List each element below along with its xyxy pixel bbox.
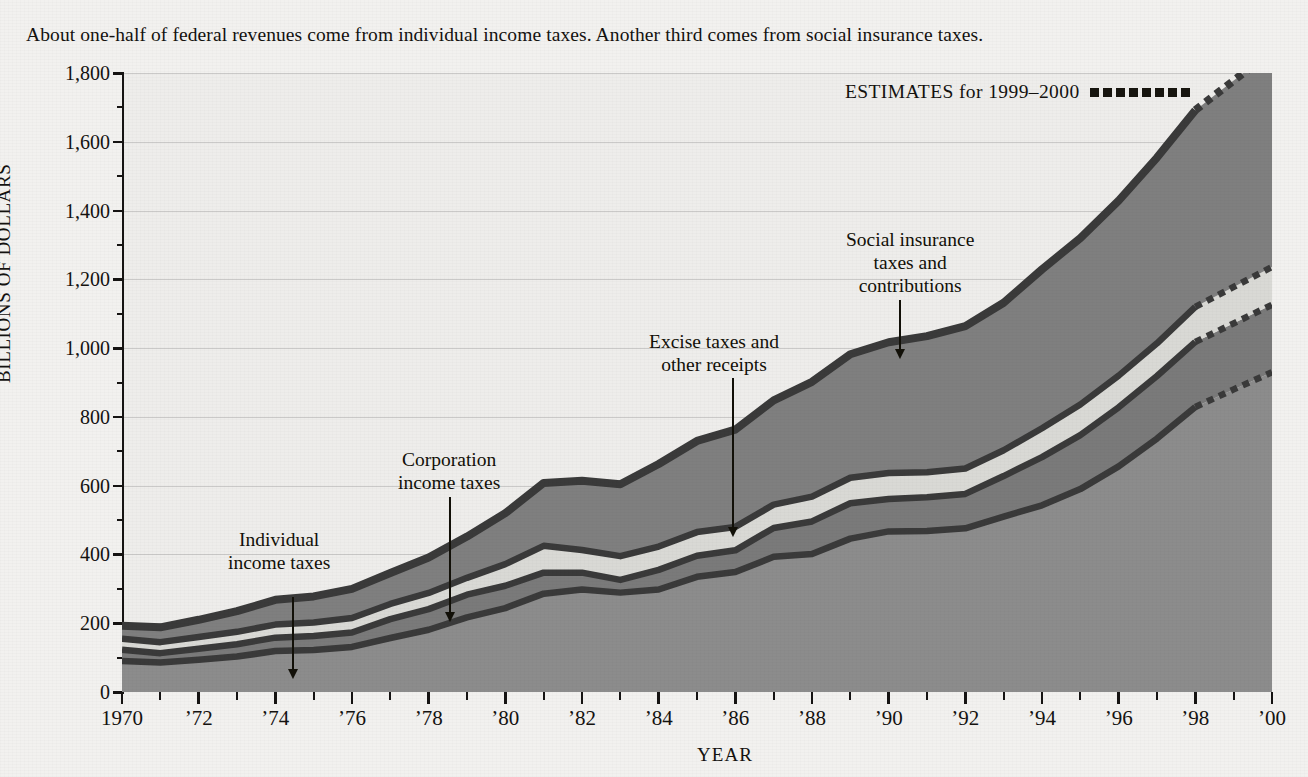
- annotation-line: Individual: [228, 528, 330, 551]
- annotation-line: Corporation: [398, 448, 500, 471]
- estimates-legend: ESTIMATES for 1999–2000: [845, 81, 1190, 103]
- annotation-line: Excise taxes and: [649, 330, 779, 353]
- annotation-individual-income-taxes: Individualincome taxes: [228, 528, 330, 574]
- chart-page: About one-half of federal revenues come …: [0, 0, 1308, 777]
- annotation-excise-taxes: Excise taxes andother receipts: [649, 330, 779, 376]
- annotation-social-insurance-taxes: Social insurancetaxes andcontributions: [846, 228, 974, 297]
- annotation-line: income taxes: [228, 551, 330, 574]
- annotation-line: income taxes: [398, 471, 500, 494]
- annotation-line: Social insurance: [846, 228, 974, 251]
- annotation-corporation-income-taxes: Corporationincome taxes: [398, 448, 500, 494]
- annotation-line: other receipts: [649, 353, 779, 376]
- dotted-line-icon: [1090, 88, 1190, 97]
- annotation-line: taxes and: [846, 251, 974, 274]
- annotation-arrows: [0, 0, 1308, 777]
- estimates-legend-label: ESTIMATES for 1999–2000: [845, 81, 1080, 103]
- annotation-line: contributions: [846, 274, 974, 297]
